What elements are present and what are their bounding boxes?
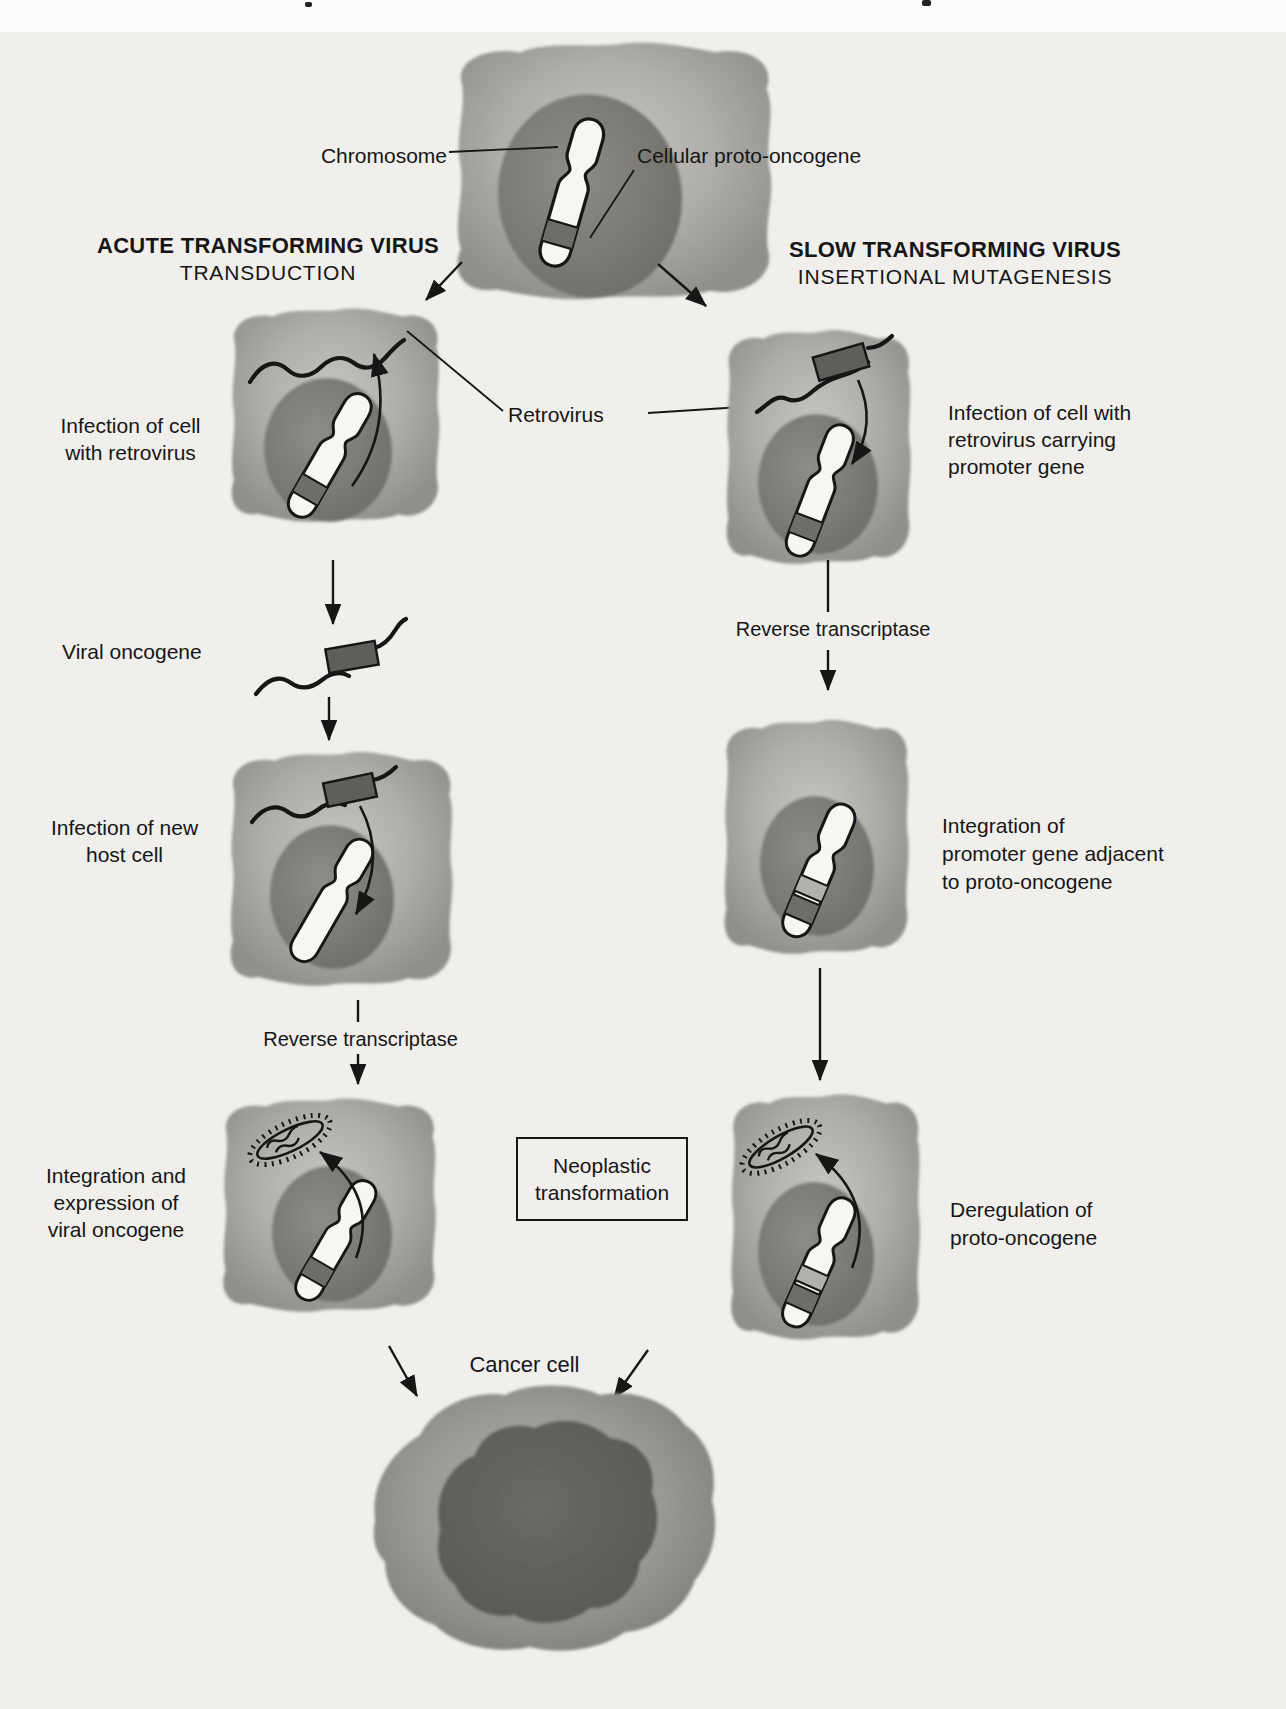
viral-oncogene-icon xyxy=(256,619,406,694)
cell-transformed-left xyxy=(223,1098,435,1311)
arrow-to-cancer-left xyxy=(389,1346,417,1396)
slow-branch-title: SLOW TRANSFORMING VIRUS INSERTIONAL MUTA… xyxy=(775,236,1135,290)
infection-of-cell-label: Infection of cell with retrovirus xyxy=(28,412,233,466)
cell-parent xyxy=(449,43,771,310)
cell-transformed-right xyxy=(731,1094,920,1339)
infection-promoter-label: Infection of cell with retrovirus carryi… xyxy=(948,399,1178,480)
arrow-to-cancer-right xyxy=(614,1350,648,1398)
scanned-textbook-figure: { "figure": { "top_labels": { "chromosom… xyxy=(0,0,1286,1709)
integration-promoter-label: Integration of promoter gene adjacent to… xyxy=(942,812,1182,896)
integration-expression-label: Integration and expression of viral onco… xyxy=(12,1162,220,1243)
cellular-proto-oncogene-label: Cellular proto-oncogene xyxy=(637,142,861,169)
deregulation-label: Deregulation of proto-oncogene xyxy=(950,1196,1180,1252)
cell-infected-right xyxy=(727,330,911,564)
neoplastic-transformation-box: Neoplastic transformation xyxy=(516,1137,688,1221)
cell-promoter-integrated xyxy=(725,720,909,954)
chromosome-label: Chromosome xyxy=(305,142,447,169)
cancer-cell-label: Cancer cell xyxy=(452,1351,597,1378)
reverse-transcriptase-left-label: Reverse transcriptase xyxy=(258,1026,463,1053)
infection-new-host-label: Infection of new host cell xyxy=(22,814,227,868)
acute-title-text: ACUTE TRANSFORMING VIRUS xyxy=(88,232,448,259)
cell-infected-left xyxy=(232,308,440,528)
reverse-transcriptase-right-label: Reverse transcriptase xyxy=(733,616,933,643)
retrovirus-label: Retrovirus xyxy=(508,401,604,428)
cellular-proto-oncogene-text: Cellular proto-oncogene xyxy=(637,144,861,167)
acute-branch-title: ACUTE TRANSFORMING VIRUS TRANSDUCTION xyxy=(88,232,448,286)
cell-new-host xyxy=(231,752,453,986)
chromosome-label-text: Chromosome xyxy=(321,144,447,167)
slow-title-text: SLOW TRANSFORMING VIRUS xyxy=(775,236,1135,263)
cancer-cell xyxy=(374,1386,715,1651)
slow-subtitle-text: INSERTIONAL MUTAGENESIS xyxy=(775,263,1135,290)
acute-subtitle-text: TRANSDUCTION xyxy=(88,259,448,286)
viral-oncogene-label: Viral oncogene xyxy=(62,638,202,665)
